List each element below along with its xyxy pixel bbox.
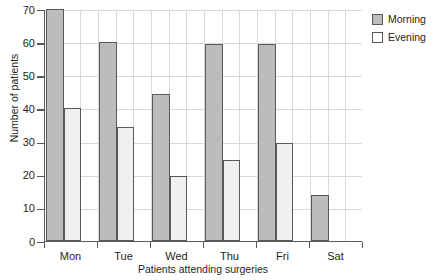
bar-fri-evening[interactable] [276, 143, 294, 241]
legend-item-evening[interactable]: Evening [372, 30, 434, 45]
legend-label-evening: Evening [388, 32, 426, 43]
bar-tue-morning[interactable] [99, 42, 117, 241]
y-axis-tick [37, 76, 44, 77]
legend-swatch-evening-icon [372, 32, 383, 43]
x-axis-label-wed: Wed [151, 250, 203, 262]
x-axis-label-tue: Tue [98, 250, 150, 262]
bar-mon-morning[interactable] [46, 9, 64, 241]
legend-label-morning: Morning [388, 14, 426, 25]
legend-item-morning[interactable]: Morning [372, 12, 434, 27]
gridline-horizontal [45, 76, 362, 77]
plot-area [44, 10, 362, 242]
x-axis-title: Patients attending surgeries [44, 263, 362, 275]
y-axis-tick [37, 176, 44, 177]
y-axis-tick-label: 10 [5, 203, 35, 214]
gridline-vertical [345, 10, 346, 241]
gridline-horizontal [45, 10, 362, 11]
x-axis-tick [44, 242, 45, 248]
chart-legend: Morning Evening [372, 12, 434, 48]
x-axis-label-thu: Thu [204, 250, 256, 262]
bar-thu-evening[interactable] [223, 160, 241, 241]
y-axis-tick-label: 30 [5, 137, 35, 148]
y-axis-tick [37, 143, 44, 144]
x-axis-label-fri: Fri [257, 250, 309, 262]
x-axis-tick [256, 242, 257, 248]
bar-thu-morning[interactable] [205, 44, 223, 241]
x-axis-tick [203, 242, 204, 248]
bar-wed-morning[interactable] [152, 94, 170, 241]
bar-mon-evening[interactable] [64, 108, 82, 241]
x-axis-label-sat: Sat [310, 250, 362, 262]
y-axis-tick-label: 0 [5, 237, 35, 248]
y-axis-tick-label: 40 [5, 104, 35, 115]
y-axis-tick [37, 43, 44, 44]
bar-chart: Number of patients 010203040506070 MonTu… [0, 0, 434, 280]
y-axis-tick-label: 50 [5, 71, 35, 82]
x-axis-tick [309, 242, 310, 248]
gridline-horizontal [45, 109, 362, 110]
gridline-horizontal [45, 43, 362, 44]
y-axis-tick-label: 60 [5, 38, 35, 49]
y-axis-tick-label: 70 [5, 5, 35, 16]
bar-tue-evening[interactable] [117, 127, 135, 241]
x-axis-tick [150, 242, 151, 248]
legend-swatch-morning-icon [372, 14, 383, 25]
bar-sat-morning[interactable] [311, 195, 329, 241]
gridline-horizontal [45, 143, 362, 144]
x-axis-tick [362, 242, 363, 248]
y-axis-tick [37, 209, 44, 210]
y-axis-tick [37, 109, 44, 110]
bar-fri-morning[interactable] [258, 44, 276, 241]
gridline-horizontal [45, 176, 362, 177]
x-axis-label-mon: Mon [45, 250, 97, 262]
bar-wed-evening[interactable] [170, 176, 188, 241]
y-axis-tick [37, 10, 44, 11]
x-axis-tick [97, 242, 98, 248]
y-axis-tick-label: 20 [5, 170, 35, 181]
y-axis-tick [37, 242, 44, 243]
